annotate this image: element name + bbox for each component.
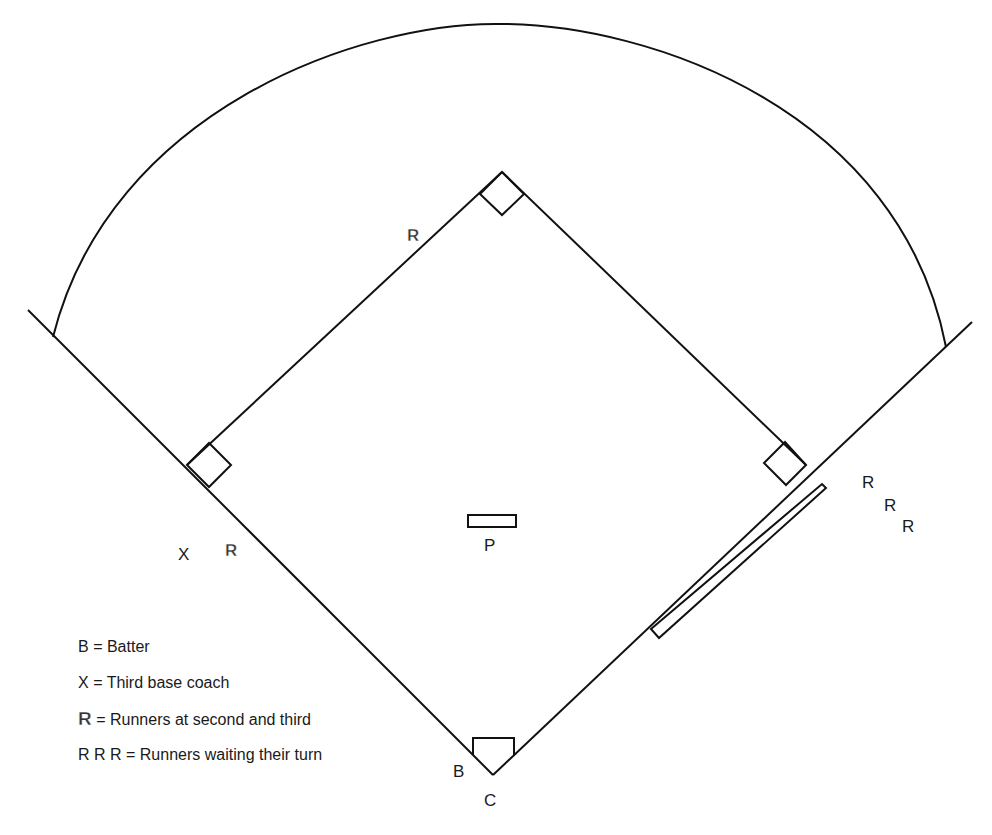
right-foul-line xyxy=(493,322,972,775)
pitcher-label: P xyxy=(484,537,495,554)
basepath-second-to-first xyxy=(502,172,806,465)
home-plate xyxy=(473,738,514,755)
third-base xyxy=(187,443,231,487)
catcher-label: C xyxy=(484,792,496,809)
legend-item-runners-waiting: R R R = Runners waiting their turn xyxy=(78,745,322,781)
first-base xyxy=(764,442,806,485)
second-base-runner: R xyxy=(407,227,419,244)
second-base xyxy=(480,172,524,215)
waiting-runner-3: R xyxy=(902,518,914,535)
batter-label: B xyxy=(453,763,464,780)
pitchers-rubber xyxy=(468,515,516,527)
legend-item-batter: B = Batter xyxy=(78,637,322,673)
waiting-runner-1: R xyxy=(862,474,874,491)
runners-waiting-area xyxy=(651,484,826,638)
waiting-runner-2: R xyxy=(884,497,896,514)
third-base-runner: R xyxy=(225,542,237,559)
legend-item-runners-on-base: R = Runners at second and third xyxy=(78,709,322,745)
outfield-fence-arc xyxy=(53,24,946,347)
basepath-third-to-second xyxy=(187,172,502,465)
third-base-coach: X xyxy=(178,546,189,563)
legend-item-coach: X = Third base coach xyxy=(78,673,322,709)
legend: B = Batter X = Third base coach R = Runn… xyxy=(78,637,322,781)
